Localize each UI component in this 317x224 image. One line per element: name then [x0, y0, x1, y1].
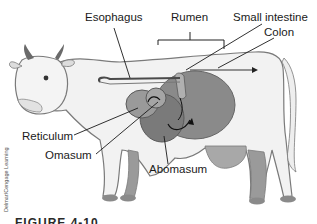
label-small-intestine: Small intestine [233, 12, 308, 24]
label-colon: Colon [264, 27, 294, 39]
image-credit: Delmar/Cengage Learning [3, 147, 9, 212]
figure-caption: FIGURE 4-10 [15, 216, 99, 224]
label-rumen: Rumen [171, 12, 208, 24]
label-abomasum: Abomasum [149, 164, 207, 176]
label-esophagus: Esophagus [85, 12, 143, 24]
label-reticulum: Reticulum [22, 131, 73, 143]
cow-eye [44, 76, 49, 81]
omasum-organ [146, 88, 166, 108]
label-omasum: Omasum [45, 150, 92, 162]
udder [205, 146, 246, 168]
horn-right [55, 44, 64, 60]
cow-digestive-diagram: Esophagus Rumen Small intestine Colon Re… [0, 0, 317, 224]
horn-left [24, 44, 34, 60]
rumen-bracket [158, 32, 224, 49]
